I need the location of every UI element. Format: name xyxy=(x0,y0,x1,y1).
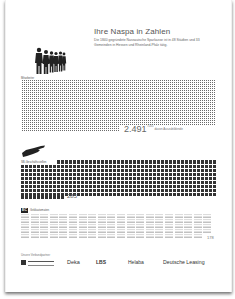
atm-unit xyxy=(184,224,192,228)
atm-unit xyxy=(175,234,183,238)
atm-unit xyxy=(136,234,144,238)
atm-unit xyxy=(155,234,163,238)
atm-unit xyxy=(79,219,87,223)
atm-unit xyxy=(21,214,29,218)
people-silhouette-icon xyxy=(33,47,67,75)
atm-unit xyxy=(136,214,144,218)
atm-unit xyxy=(59,234,67,238)
atm-unit xyxy=(127,219,135,223)
atm-unit xyxy=(184,219,192,223)
atm-unit xyxy=(203,214,211,218)
atm-unit xyxy=(31,234,39,238)
atm-unit xyxy=(136,219,144,223)
atm-unit xyxy=(175,224,183,228)
atm-unit xyxy=(79,214,87,218)
atm-unit xyxy=(146,229,154,233)
atm-unit xyxy=(107,219,115,223)
atm-unit xyxy=(175,219,183,223)
atm-unit xyxy=(79,229,87,233)
atm-unit xyxy=(107,214,115,218)
atm-unit xyxy=(175,214,183,218)
atm-unit xyxy=(117,229,125,233)
atm-unit xyxy=(40,219,48,223)
atm-unit xyxy=(184,234,192,238)
atm-unit xyxy=(40,229,48,233)
atm-unit xyxy=(69,214,77,218)
atm-unit xyxy=(31,214,39,218)
partners-label: Unsere Verbundpartner xyxy=(21,253,50,257)
atm-unit xyxy=(50,219,58,223)
atm-unit xyxy=(21,219,29,223)
branches-grid-last-row xyxy=(21,196,65,199)
atm-unit xyxy=(165,229,173,233)
employees-count-block: 2.491/145davon Auszubildende xyxy=(124,124,183,134)
atm-unit xyxy=(31,219,39,223)
atm-unit xyxy=(59,224,67,228)
atm-unit xyxy=(69,229,77,233)
atm-unit xyxy=(88,224,96,228)
atm-unit xyxy=(155,214,163,218)
logo-helaba: Helaba xyxy=(128,259,144,265)
atm-unit xyxy=(175,229,183,233)
atm-unit xyxy=(194,229,202,233)
atm-unit xyxy=(203,224,211,228)
atm-unit xyxy=(203,229,211,233)
atm-unit xyxy=(98,214,106,218)
atm-unit xyxy=(69,224,77,228)
atm-unit xyxy=(69,219,77,223)
atm-unit xyxy=(79,224,87,228)
atm-unit xyxy=(165,219,173,223)
logo-deutsche-leasing: Deutsche Leasing xyxy=(163,259,205,265)
atm-unit xyxy=(50,229,58,233)
atm-unit xyxy=(165,224,173,228)
atm-unit xyxy=(127,214,135,218)
atm-unit xyxy=(194,224,202,228)
atm-unit xyxy=(21,229,29,233)
logo-deka: Deka xyxy=(67,259,80,265)
atm-unit xyxy=(155,229,163,233)
atm-unit xyxy=(194,214,202,218)
atm-unit xyxy=(107,224,115,228)
atm-unit xyxy=(146,214,154,218)
atm-unit xyxy=(88,214,96,218)
atm-unit xyxy=(194,234,202,238)
atm-unit xyxy=(127,229,135,233)
atm-unit xyxy=(59,219,67,223)
atm-unit xyxy=(21,234,29,238)
atm-unit xyxy=(31,224,39,228)
atm-unit xyxy=(136,229,144,233)
atm-unit xyxy=(88,219,96,223)
atm-unit xyxy=(127,234,135,238)
atm-unit xyxy=(117,219,125,223)
atm-unit xyxy=(155,219,163,223)
atm-unit xyxy=(184,214,192,218)
atm-unit xyxy=(98,234,106,238)
atm-unit xyxy=(146,234,154,238)
intro-text: Die 1840 gegründete Nassauische Sparkass… xyxy=(94,38,212,48)
atm-unit xyxy=(59,229,67,233)
branches-grid xyxy=(21,164,217,196)
atm-unit xyxy=(117,224,125,228)
atm-unit xyxy=(107,234,115,238)
atm-unit xyxy=(59,214,67,218)
atm-unit xyxy=(40,214,48,218)
atm-unit xyxy=(50,224,58,228)
logo-sparkassen-finanzgruppe xyxy=(21,260,55,265)
atm-unit xyxy=(50,214,58,218)
atms-count: 178 xyxy=(207,235,214,240)
atm-unit xyxy=(146,224,154,228)
atm-unit xyxy=(146,219,154,223)
atm-unit xyxy=(203,219,211,223)
logo-lbs: LBS xyxy=(96,259,106,265)
atm-unit xyxy=(98,224,106,228)
atm-unit xyxy=(127,224,135,228)
atm-unit xyxy=(31,229,39,233)
atm-unit xyxy=(194,219,202,223)
employees-count: 2.491 xyxy=(124,124,147,134)
atm-unit xyxy=(40,234,48,238)
hand-icon xyxy=(21,145,47,158)
atm-unit xyxy=(107,229,115,233)
atm-unit xyxy=(117,214,125,218)
atm-unit xyxy=(40,224,48,228)
atms-label: Geldautomaten xyxy=(30,208,50,212)
